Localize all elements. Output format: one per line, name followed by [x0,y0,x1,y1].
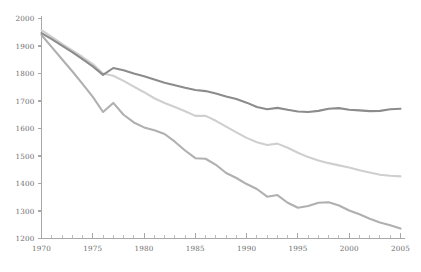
y-tick-label: 1300 [15,207,34,216]
y-tick-label: 1800 [15,69,34,78]
x-tick-label: 2000 [340,244,359,253]
x-tick-label: 1970 [32,244,51,253]
y-tick-label: 1500 [15,152,34,161]
y-tick-label: 1400 [15,179,34,188]
x-axis-tick-labels: 19701975198019851990199520002005 [32,244,410,253]
x-tick-label: 2005 [391,244,410,253]
x-axis: 19701975198019851990199520002005 [32,233,410,253]
x-axis-major-ticks [42,233,401,239]
x-tick-label: 1990 [237,244,256,253]
x-tick-label: 1980 [135,244,154,253]
series-line-series-bottom [42,35,401,229]
data-series-group [42,30,401,229]
y-tick-label: 1700 [15,97,34,106]
y-tick-label: 2000 [15,14,34,23]
y-axis: 120013001400150016001700180019002000 [15,14,41,243]
chart-plot-area: 120013001400150016001700180019002000 197… [0,0,421,272]
line-chart: 120013001400150016001700180019002000 197… [0,0,421,272]
x-tick-label: 1995 [288,244,307,253]
x-tick-label: 1985 [186,244,205,253]
series-line-series-middle [42,30,401,176]
y-tick-label: 1900 [15,42,34,51]
y-axis-tick-labels: 120013001400150016001700180019002000 [15,14,34,243]
y-axis-ticks [38,19,42,239]
x-tick-label: 1975 [83,244,102,253]
y-tick-label: 1600 [15,124,34,133]
y-tick-label: 1200 [15,234,34,243]
